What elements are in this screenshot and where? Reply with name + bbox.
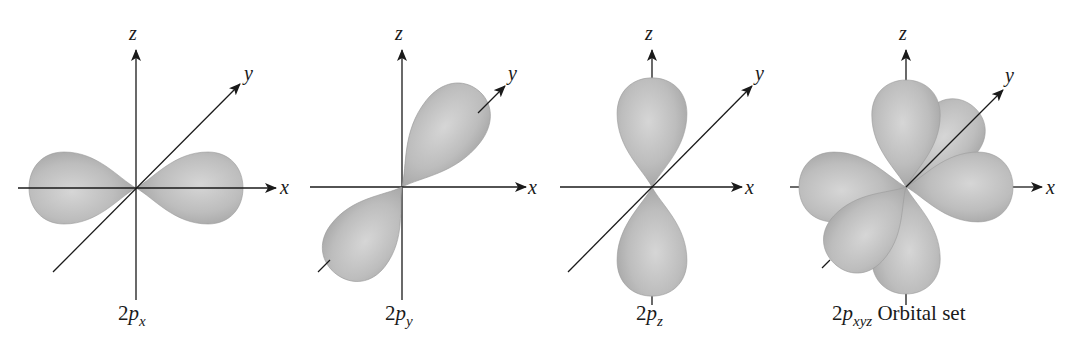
z-axis-label: z <box>898 22 907 44</box>
p-orbitals-diagram: z x y 2px z x y 2py z x y 2pz <box>0 0 1076 351</box>
y-axis-label: y <box>242 62 253 85</box>
panel-2py: z x y 2py <box>309 22 537 329</box>
panel-2pz: z x y 2pz <box>560 22 764 329</box>
y-axis-front <box>822 260 830 268</box>
x-axis-label: x <box>744 176 754 198</box>
caption-2py: 2py <box>385 301 413 329</box>
lobe-negative-z <box>617 187 687 296</box>
caption-2pxyz: 2pxyz Orbital set <box>832 301 966 329</box>
caption-2px: 2px <box>118 301 146 329</box>
x-axis-label: x <box>527 176 537 198</box>
lobe-positive-z <box>617 78 687 187</box>
panel-2px: z x y 2px <box>18 22 289 329</box>
y-axis-label: y <box>1003 64 1014 87</box>
x-axis-label: x <box>279 176 289 198</box>
z-axis-label: z <box>128 22 137 44</box>
x-axis-label: x <box>1045 176 1055 198</box>
lobe-negative-y <box>309 166 429 294</box>
z-axis-label: z <box>644 22 653 44</box>
z-axis-label: z <box>394 22 403 44</box>
y-axis-label: y <box>753 62 764 85</box>
caption-2pz: 2pz <box>636 301 663 329</box>
panel-2pxyz: z x y 2pxyz Orbital set <box>790 22 1055 329</box>
y-axis-label: y <box>506 62 517 85</box>
